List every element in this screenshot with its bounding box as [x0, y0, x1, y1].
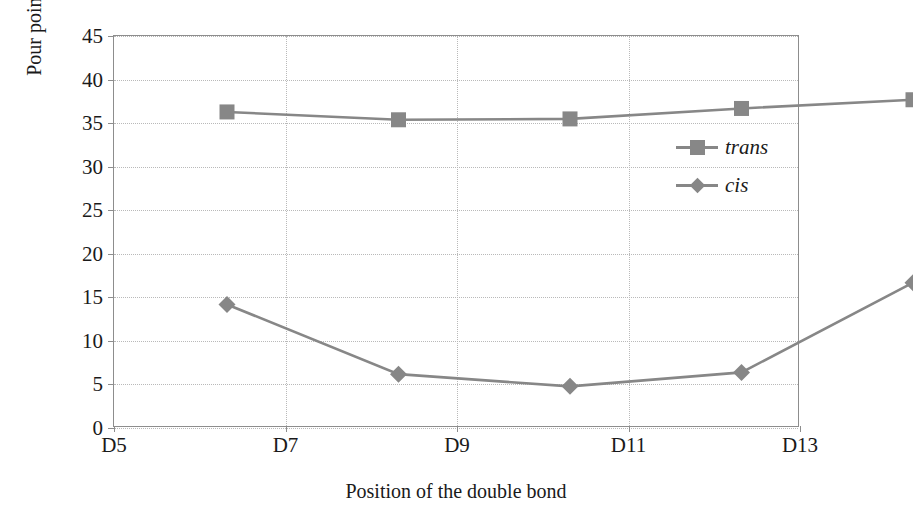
marker-square-trans-D5	[220, 104, 235, 119]
marker-diamond-cis-D13	[905, 274, 913, 291]
y-tick-label-45: 45	[82, 26, 103, 47]
marker-diamond-cis-D9	[562, 378, 579, 395]
marker-diamond-cis-D7	[390, 366, 407, 383]
x-axis-title: Position of the double bond	[113, 480, 799, 503]
y-tick-mark-30	[108, 167, 114, 168]
x-tick-mark-D5	[114, 426, 115, 432]
marker-diamond-cis-D11	[733, 364, 750, 381]
y-tick-label-30: 30	[82, 156, 103, 177]
y-tick-label-5: 5	[93, 374, 104, 395]
y-tick-mark-5	[108, 384, 114, 385]
square-marker-icon	[676, 138, 718, 156]
y-tick-mark-40	[108, 80, 114, 81]
y-tick-mark-35	[108, 123, 114, 124]
y-tick-label-25: 25	[82, 200, 103, 221]
y-tick-label-20: 20	[82, 243, 103, 264]
series-cis	[219, 274, 913, 395]
y-tick-mark-10	[108, 341, 114, 342]
diamond-marker-icon	[676, 176, 718, 194]
chart-legend: trans cis	[676, 128, 796, 204]
legend-label-cis: cis	[725, 173, 748, 198]
y-axis-title: Pour point (°C)	[22, 0, 46, 134]
gridline-y-45	[114, 36, 798, 37]
legend-item-trans: trans	[676, 128, 796, 166]
plot-area: 051015202530354045 D5D7D9D11D13	[113, 35, 799, 427]
series-line-cis	[227, 283, 913, 387]
x-tick-label-D5: D5	[101, 435, 127, 456]
y-tick-mark-20	[108, 254, 114, 255]
marker-square-trans-D13	[906, 92, 913, 107]
legend-label-trans: trans	[725, 135, 768, 160]
y-tick-label-40: 40	[82, 69, 103, 90]
marker-square-trans-D11	[734, 101, 749, 116]
marker-square-trans-D9	[563, 111, 578, 126]
series-trans	[220, 92, 913, 127]
y-tick-label-15: 15	[82, 287, 103, 308]
y-tick-mark-25	[108, 210, 114, 211]
y-tick-label-35: 35	[82, 113, 103, 134]
y-tick-label-10: 10	[82, 330, 103, 351]
y-tick-mark-45	[108, 36, 114, 37]
legend-item-cis: cis	[676, 166, 796, 204]
data-series-layer	[227, 71, 913, 463]
marker-diamond-cis-D5	[219, 296, 236, 313]
marker-square-trans-D7	[391, 112, 406, 127]
y-tick-mark-15	[108, 297, 114, 298]
